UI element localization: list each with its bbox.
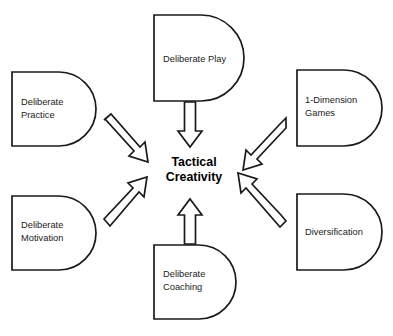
node-label-deliberate-practice-line1: Deliberate xyxy=(21,97,63,107)
node-label-deliberate-coaching-line2: Coaching xyxy=(163,282,202,292)
node-label-deliberate-practice-line2: Practice xyxy=(21,110,55,120)
arrow-down-icon xyxy=(178,102,202,147)
arrow-up-right-icon xyxy=(104,177,147,226)
node-shape-d-form xyxy=(12,72,96,146)
node-deliberate-coaching[interactable]: Deliberate Coaching xyxy=(154,245,236,319)
arrow-up-left-icon xyxy=(238,173,286,227)
arrow-diversification-to-center xyxy=(238,173,286,227)
arrow-games-to-center xyxy=(243,118,286,170)
node-one-dimension-games[interactable]: 1-Dimension Games xyxy=(297,70,382,146)
node-label-deliberate-motivation-line1: Deliberate xyxy=(21,220,63,230)
node-diversification[interactable]: Diversification xyxy=(297,194,382,270)
tactical-creativity-diagram: Deliberate Play Deliberate Practice 1-Di… xyxy=(0,0,393,336)
center-label-tactical-creativity: Tactical Creativity xyxy=(166,155,223,184)
node-deliberate-practice[interactable]: Deliberate Practice xyxy=(12,72,96,146)
node-deliberate-motivation[interactable]: Deliberate Motivation xyxy=(12,196,96,270)
diagram-canvas: Deliberate Play Deliberate Practice 1-Di… xyxy=(0,0,393,336)
arrow-play-to-center xyxy=(178,102,202,147)
node-label-diversification-line1: Diversification xyxy=(305,227,363,237)
node-label-one-dimension-games-line1: 1-Dimension xyxy=(305,95,357,105)
node-deliberate-play[interactable]: Deliberate Play xyxy=(154,15,244,101)
arrow-down-left-icon xyxy=(243,118,286,170)
arrow-down-right-icon xyxy=(104,114,148,162)
arrow-motivation-to-center xyxy=(104,177,147,226)
node-label-one-dimension-games-line2: Games xyxy=(305,108,335,118)
node-label-deliberate-play-line1: Deliberate Play xyxy=(163,54,226,64)
node-label-deliberate-coaching-line1: Deliberate xyxy=(163,269,205,279)
center-label-line2: Creativity xyxy=(166,170,223,184)
arrow-up-icon xyxy=(178,199,202,244)
arrow-coaching-to-center xyxy=(178,199,202,244)
arrow-practice-to-center xyxy=(104,114,148,162)
center-label-line1: Tactical xyxy=(171,155,216,169)
node-label-deliberate-motivation-line2: Motivation xyxy=(21,233,63,243)
